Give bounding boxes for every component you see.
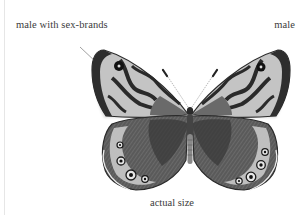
left-hindwing [102, 116, 188, 190]
left-forewing [92, 50, 188, 117]
right-hindwing [192, 116, 278, 190]
butterfly-illustration [0, 0, 304, 215]
right-forewing [192, 50, 290, 117]
butterfly-body [187, 107, 193, 164]
caption-actual-size: actual size [0, 197, 304, 208]
